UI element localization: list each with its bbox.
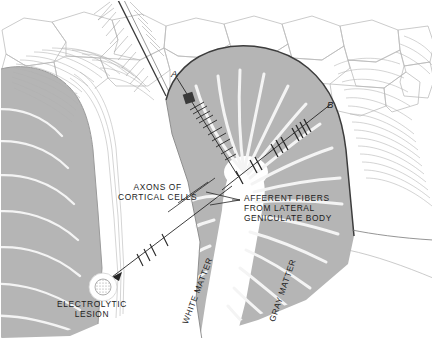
electrolytic-lesion-mark <box>89 273 117 301</box>
cortex-diagram-svg <box>0 0 433 339</box>
diagram-body <box>0 0 433 339</box>
figure-canvas: A B AXONS OF CORTICAL CELLS AFFERENT FIB… <box>0 0 433 339</box>
